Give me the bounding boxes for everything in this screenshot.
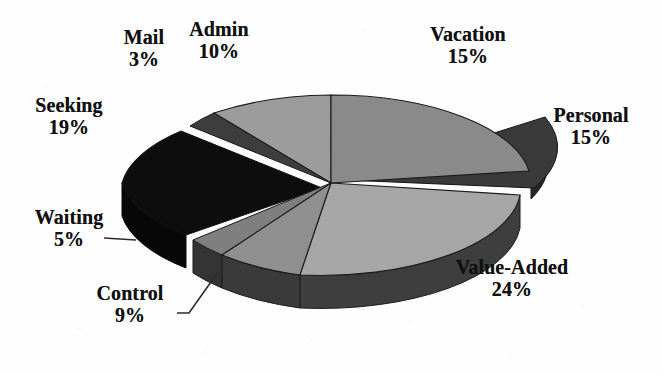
pie-label-vacation: Vacation 15% [412, 24, 524, 67]
pie-label-control: Control 9% [84, 283, 176, 326]
pie-label-seeking-value: 19% [16, 117, 122, 139]
pie-label-control-name: Control [84, 283, 176, 305]
pie-label-admin: Admin 10% [176, 19, 262, 62]
slice-top-vacation [331, 95, 529, 183]
pie-label-mail-value: 3% [111, 49, 177, 71]
pie-label-seeking-name: Seeking [16, 95, 122, 117]
pie-label-personal-value: 15% [533, 127, 649, 149]
pie-label-control-value: 9% [84, 305, 176, 327]
pie-label-personal-name: Personal [533, 105, 649, 127]
pie-label-value-added-value: 24% [432, 279, 592, 301]
pie-chart-figure: Mail 3% Admin 10% Vacation 15% Personal … [0, 0, 662, 374]
pie-label-vacation-value: 15% [412, 46, 524, 68]
pie-label-admin-value: 10% [176, 41, 262, 63]
pie-label-mail-name: Mail [111, 27, 177, 49]
pie-label-value-added-name: Value-Added [432, 257, 592, 279]
pie-label-waiting: Waiting 5% [20, 207, 118, 250]
pie-label-mail: Mail 3% [111, 27, 177, 70]
pie-label-seeking: Seeking 19% [16, 95, 122, 138]
pie-label-value-added: Value-Added 24% [432, 257, 592, 300]
pie-label-vacation-name: Vacation [412, 24, 524, 46]
pie-label-personal: Personal 15% [533, 105, 649, 148]
pie-label-admin-name: Admin [176, 19, 262, 41]
pie-label-waiting-value: 5% [20, 229, 118, 251]
pie-label-waiting-name: Waiting [20, 207, 118, 229]
